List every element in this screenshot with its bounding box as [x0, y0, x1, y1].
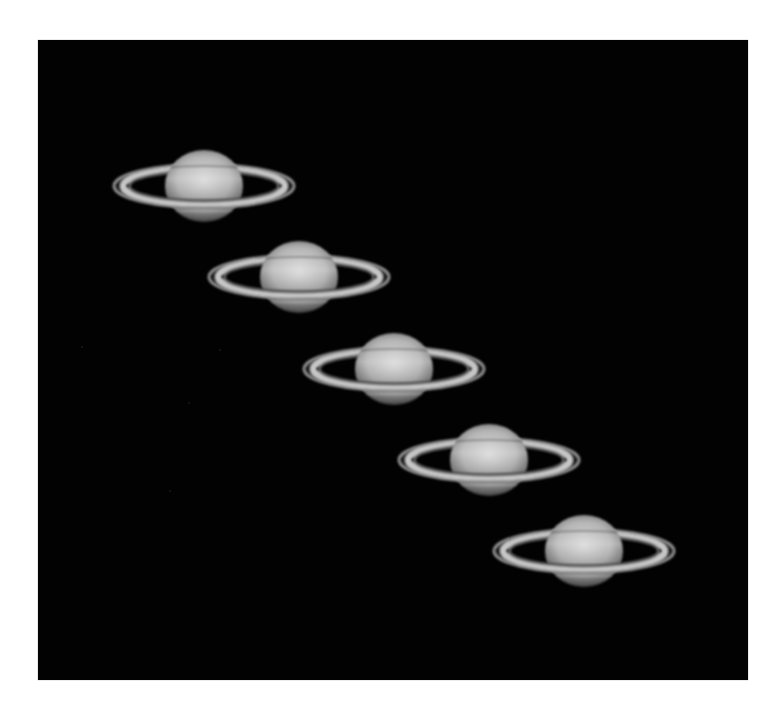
background-noise-specks [81, 346, 221, 491]
saturn-frame-5 [494, 515, 674, 587]
saturn-sequence [0, 0, 777, 717]
saturn-frame-4 [399, 424, 579, 496]
saturn-frame-1 [114, 150, 294, 222]
saturn-frame-3 [304, 333, 484, 405]
saturn-frame-2 [209, 241, 389, 313]
image-canvas [0, 0, 777, 717]
